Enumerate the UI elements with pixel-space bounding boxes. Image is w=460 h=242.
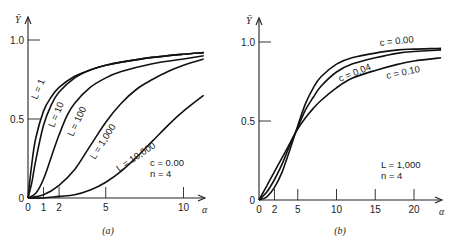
x-tick-label: 10	[331, 204, 343, 215]
x-tick-label: 5	[103, 202, 109, 213]
parameter-annotation: n = 4	[150, 168, 171, 179]
panel-label: (a)	[102, 225, 114, 237]
x-tick-label: 20	[408, 204, 420, 215]
y-tick-label: 0.5	[10, 114, 24, 125]
parameter-annotation: L = 1,000	[381, 159, 421, 170]
y-tick-label: 0	[18, 193, 24, 204]
series-label-3: L = 100	[65, 105, 88, 138]
series-label-1: L = 1	[29, 77, 47, 101]
series-label-1: c = 0.00	[379, 33, 414, 48]
y-tick-label: 0	[249, 195, 255, 206]
parameter-annotation: c = 0.00	[150, 157, 184, 168]
parameter-annotation: n = 4	[381, 170, 402, 181]
panel-a: αȲ01251000.51.0L = 1L = 10L = 100L = 1,0…	[10, 14, 208, 237]
y-tick-label: 1.0	[10, 35, 24, 46]
x-tick-label: 0	[25, 202, 31, 213]
y-tick-label: 1.0	[241, 37, 255, 48]
x-tick-label: 10	[178, 202, 190, 213]
y-tick-label: 0.5	[241, 116, 255, 127]
x-axis-label: α	[439, 206, 445, 217]
panel-b: αȲ02510152000.51.0c = 0.00c = 0.04c = 0.…	[241, 15, 445, 237]
x-tick-label: 2	[272, 204, 278, 215]
y-axis-label: Ȳ	[246, 15, 253, 26]
figure: αȲ01251000.51.0L = 1L = 10L = 100L = 1,0…	[0, 0, 460, 242]
x-tick-label: 15	[370, 204, 382, 215]
panel-label: (b)	[334, 225, 346, 237]
x-tick-label: 5	[295, 204, 301, 215]
x-tick-label: 2	[56, 202, 62, 213]
y-axis-label: Ȳ	[15, 14, 22, 25]
x-axis-label: α	[202, 204, 208, 215]
x-tick-label: 1	[41, 202, 47, 213]
x-tick-label: 0	[256, 204, 262, 215]
series-line-3	[259, 58, 441, 200]
